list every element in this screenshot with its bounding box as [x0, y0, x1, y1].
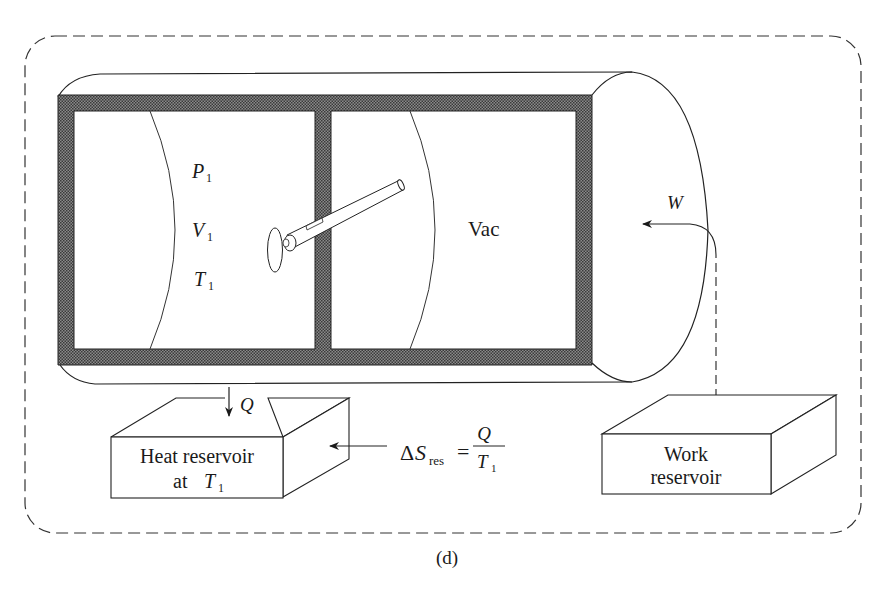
- volume-subscript: 1: [207, 230, 213, 244]
- temperature-subscript: 1: [208, 279, 214, 293]
- diagram-canvas: P 1 V 1 T 1 Vac W Q Heat reservoir at T …: [0, 0, 895, 590]
- heat-transfer: Q: [229, 387, 254, 416]
- equals-sign: =: [457, 439, 469, 464]
- left-chamber-arc: [150, 111, 175, 349]
- entropy-sub: res: [429, 453, 444, 468]
- entropy-equation: Δ S res = Q T 1: [330, 423, 505, 474]
- fraction-denominator: T: [477, 451, 489, 472]
- heat-reservoir-temp: T: [204, 470, 217, 492]
- work-reservoir: Work reservoir: [602, 395, 836, 494]
- work-reservoir-line2: reservoir: [650, 466, 721, 488]
- fraction-denominator-sub: 1: [491, 462, 497, 474]
- work-transfer: W: [643, 192, 716, 412]
- heat-reservoir: Heat reservoir at T 1: [111, 398, 349, 498]
- pressure-subscript: 1: [206, 171, 212, 185]
- vacuum-label: Vac: [468, 217, 499, 241]
- work-label: W: [667, 192, 685, 213]
- heat-reservoir-at: at: [173, 470, 188, 492]
- delta-symbol: Δ: [400, 440, 414, 465]
- volume-label: V: [192, 219, 207, 241]
- right-chamber-arc: [410, 111, 435, 349]
- temperature-label: T: [194, 268, 207, 290]
- fraction-numerator: Q: [477, 423, 491, 444]
- heat-reservoir-temp-sub: 1: [218, 481, 224, 495]
- state-labels: P 1 V 1 T 1: [191, 160, 214, 293]
- entropy-var: S: [415, 440, 426, 465]
- valve-handle-icon: [268, 228, 283, 272]
- heat-reservoir-title: Heat reservoir: [140, 445, 254, 467]
- pressure-label: P: [191, 160, 204, 182]
- cylinder: [58, 72, 708, 384]
- valve-rod: [268, 179, 406, 272]
- figure-caption: (d): [436, 547, 458, 569]
- work-reservoir-line1: Work: [664, 443, 708, 465]
- heat-label: Q: [240, 394, 254, 415]
